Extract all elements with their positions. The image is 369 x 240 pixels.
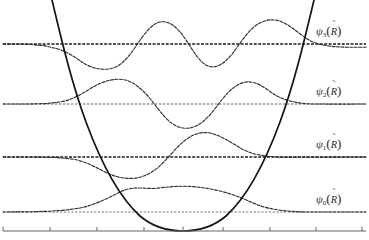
r-tilde-2: ˜R [331,86,337,97]
label-psi-3: ψ3(˜R) [316,24,341,39]
harmonic-oscillator-figure: ψ3(˜R) ψ2(˜R) ψ1(˜R) ψ0(˜R) [0,0,369,240]
label-psi-2: ψ2(˜R) [316,84,341,99]
harmonic-potential-curve [52,0,314,231]
label-psi-1: ψ1(˜R) [316,137,341,152]
paren-close-3: ) [337,23,341,38]
psi-symbol-0: ψ [316,193,323,205]
wavefunction-curves [3,20,366,212]
r-tilde-0: ˜R [331,194,337,205]
psi-symbol-3: ψ [316,25,323,37]
label-psi-0: ψ0(˜R) [316,192,341,207]
wavefunction-psi-1 [3,133,366,179]
r-tilde-1: ˜R [331,139,337,150]
paren-close-2: ) [337,83,341,98]
wavefunction-psi-0 [3,186,366,212]
r-tilde-3: ˜R [331,26,337,37]
psi-symbol-2: ψ [316,85,323,97]
plot-canvas [0,0,369,240]
psi-symbol-1: ψ [316,138,323,150]
paren-close-0: ) [337,191,341,206]
potential-curve-group [52,0,314,231]
paren-close-1: ) [337,136,341,151]
axis-ticks [3,227,362,232]
